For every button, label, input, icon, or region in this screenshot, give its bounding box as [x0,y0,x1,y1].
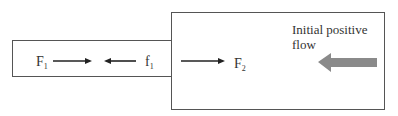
arrows-layer [0,0,398,116]
flow-arrow-icon [318,53,377,72]
arrow-F1-icon [53,58,92,64]
arrow-F2-icon [181,58,225,64]
arrow-f1-icon [104,58,136,64]
